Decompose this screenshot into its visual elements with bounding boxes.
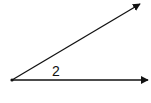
vertex-point (10, 78, 13, 81)
angle-diagram: 2 (0, 0, 151, 103)
angle-label: 2 (52, 63, 60, 79)
upper-ray (12, 4, 140, 80)
